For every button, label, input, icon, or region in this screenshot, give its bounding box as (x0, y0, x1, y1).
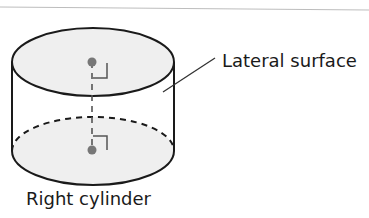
right-cylinder-diagram (0, 0, 369, 218)
diagram-caption: Right cylinder (26, 190, 151, 208)
top-center-dot (88, 58, 97, 67)
bottom-center-dot (88, 146, 97, 155)
lateral-surface-label: Lateral surface (222, 52, 357, 70)
top-rule-divider (0, 7, 369, 10)
